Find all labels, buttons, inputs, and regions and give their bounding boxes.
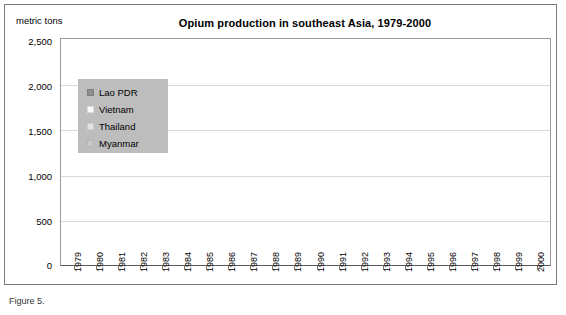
legend-item-thailand: Thailand bbox=[87, 118, 167, 135]
x-tick-label: 1991 bbox=[339, 252, 348, 286]
x-tick-label: 1985 bbox=[206, 252, 215, 286]
x-tick-label: 1987 bbox=[250, 252, 259, 286]
x-tick-label: 1999 bbox=[515, 252, 524, 286]
x-tick-label: 1994 bbox=[405, 252, 414, 286]
legend-item-vietnam: Vietnam bbox=[87, 101, 167, 118]
bar-column bbox=[437, 39, 459, 265]
figure-page: metric tons Opium production in southeas… bbox=[0, 0, 566, 315]
x-tick-label: 1993 bbox=[383, 252, 392, 286]
x-tick-label: 1989 bbox=[294, 252, 303, 286]
bar-column bbox=[174, 39, 196, 265]
x-tick-label: 1998 bbox=[493, 252, 502, 286]
legend-swatch-myanmar bbox=[87, 140, 94, 147]
x-tick-label: 1996 bbox=[449, 252, 458, 286]
x-tick-label: 1997 bbox=[471, 252, 480, 286]
x-tick-label: 1979 bbox=[74, 252, 83, 286]
x-tick-label: 1988 bbox=[272, 252, 281, 286]
bar-column bbox=[196, 39, 218, 265]
x-tick-label: 1980 bbox=[96, 252, 105, 286]
legend-item-lao-pdr: Lao PDR bbox=[87, 84, 167, 101]
bar-column bbox=[371, 39, 393, 265]
bar-column bbox=[262, 39, 284, 265]
y-axis-caption: metric tons bbox=[16, 15, 62, 26]
legend-label-thailand: Thailand bbox=[99, 122, 135, 132]
legend-label-vietnam: Vietnam bbox=[99, 105, 134, 115]
x-tick-label: 1995 bbox=[427, 252, 436, 286]
legend-swatch-vietnam bbox=[87, 106, 94, 113]
figure-caption: Figure 5. bbox=[9, 296, 559, 308]
legend-swatch-lao-pdr bbox=[87, 89, 94, 96]
chart-legend: Lao PDR Vietnam Thailand Myanmar bbox=[78, 79, 168, 153]
bar-column bbox=[415, 39, 437, 265]
x-tick-label: 1983 bbox=[162, 252, 171, 286]
bar-column bbox=[284, 39, 306, 265]
legend-item-myanmar: Myanmar bbox=[87, 135, 167, 152]
bar-column bbox=[218, 39, 240, 265]
legend-swatch-thailand bbox=[87, 123, 94, 130]
x-tick-label: 1990 bbox=[317, 252, 326, 286]
x-tick-label: 1992 bbox=[361, 252, 370, 286]
bar-column bbox=[525, 39, 547, 265]
chart-title: Opium production in southeast Asia, 1979… bbox=[105, 17, 505, 29]
x-tick-label: 1984 bbox=[184, 252, 193, 286]
bar-column bbox=[240, 39, 262, 265]
bar-column bbox=[305, 39, 327, 265]
x-tick-label: 1982 bbox=[140, 252, 149, 286]
bar-column bbox=[327, 39, 349, 265]
bar-column bbox=[393, 39, 415, 265]
x-tick-label: 1986 bbox=[228, 252, 237, 286]
x-tick-label: 2000 bbox=[537, 252, 546, 286]
bar-column bbox=[349, 39, 371, 265]
bar-column bbox=[459, 39, 481, 265]
legend-label-myanmar: Myanmar bbox=[99, 139, 139, 149]
bar-column bbox=[503, 39, 525, 265]
x-tick-label: 1981 bbox=[118, 252, 127, 286]
bar-column bbox=[481, 39, 503, 265]
legend-label-lao-pdr: Lao PDR bbox=[99, 88, 138, 98]
